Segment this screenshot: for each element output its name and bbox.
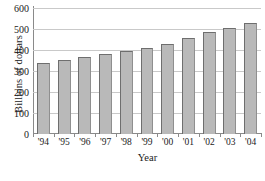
bar [203,32,216,134]
x-tick-label: '02 [204,137,215,147]
x-tick-mark [137,134,138,137]
x-tick-label: '98 [121,137,132,147]
x-tick-mark [74,134,75,137]
x-tick-mark [157,134,158,137]
bar [37,63,50,134]
x-tick-mark [199,134,200,137]
x-tick-label: '94 [38,137,49,147]
bar-chart: Billions of dollars 0100200300400500600 … [0,0,265,181]
x-tick-mark [178,134,179,137]
x-tick-label: '99 [141,137,152,147]
y-tick-label: 300 [0,66,29,77]
x-tick-mark [95,134,96,137]
bar [120,51,133,134]
x-tick-mark [54,134,55,137]
x-tick-label: '00 [162,137,173,147]
bar [244,23,257,134]
y-tick-label: 200 [0,87,29,98]
x-tick-label: '03 [224,137,235,147]
x-tick-label: '01 [183,137,194,147]
bar [223,28,236,134]
bar [182,38,195,134]
y-tick-label: 600 [0,3,29,14]
bars [33,8,261,134]
x-tick-mark [240,134,241,137]
x-tick-mark [261,134,262,137]
x-tick-mark [116,134,117,137]
x-axis-title: Year [33,152,262,163]
x-tick-mark [33,134,34,137]
y-tick-label: 0 [0,129,29,140]
y-tick-label: 400 [0,45,29,56]
x-tick-mark [220,134,221,137]
bar [78,57,91,134]
y-tick-label: 100 [0,108,29,119]
bar [161,44,174,134]
x-tick-label: '04 [245,137,256,147]
x-tick-label: '95 [58,137,69,147]
bar [58,60,71,134]
x-tick-label: '96 [79,137,90,147]
y-tick-label: 500 [0,24,29,35]
bar [99,54,112,134]
plot-area: 0100200300400500600 [33,8,261,134]
x-tick-label: '97 [100,137,111,147]
bar [141,48,154,134]
